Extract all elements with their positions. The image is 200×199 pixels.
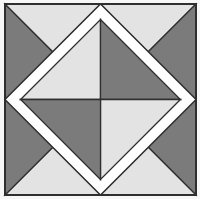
quilt-block xyxy=(0,0,200,199)
